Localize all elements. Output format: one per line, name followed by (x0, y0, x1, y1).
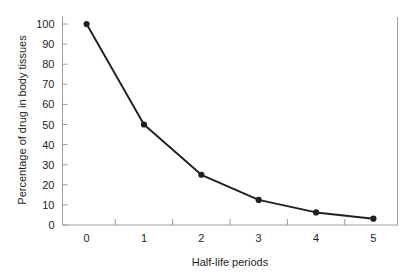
y-axis-title: Percentage of drug in body tissues (16, 35, 28, 205)
y-tick-label-90: 90 (42, 38, 54, 50)
y-tick-label-20: 20 (42, 179, 54, 191)
y-tick-label-70: 70 (42, 78, 54, 90)
half-life-decay-line-chart: 0102030405060708090100 012345 Half-life … (0, 0, 420, 276)
x-tick-label-0: 0 (84, 232, 90, 244)
chart-figure: 0102030405060708090100 012345 Half-life … (0, 0, 420, 276)
x-tick-label-4: 4 (313, 232, 319, 244)
y-tick-label-10: 10 (42, 199, 54, 211)
data-point-1 (141, 121, 147, 127)
data-point-2 (198, 172, 204, 178)
y-tick-label-30: 30 (42, 159, 54, 171)
y-tick-label-40: 40 (42, 139, 54, 151)
y-tick-label-60: 60 (42, 98, 54, 110)
data-point-4 (313, 209, 319, 215)
data-point-3 (256, 197, 262, 203)
x-tick-label-2: 2 (198, 232, 204, 244)
x-axis-title: Half-life periods (192, 256, 269, 268)
data-point-0 (83, 21, 89, 27)
y-tick-label-50: 50 (42, 119, 54, 131)
y-tick-label-80: 80 (42, 58, 54, 70)
x-tick-label-1: 1 (141, 232, 147, 244)
x-tick-label-3: 3 (256, 232, 262, 244)
y-tick-label-0: 0 (48, 219, 54, 231)
data-point-5 (370, 216, 376, 222)
x-tick-label-5: 5 (370, 232, 376, 244)
y-tick-label-100: 100 (36, 18, 54, 30)
